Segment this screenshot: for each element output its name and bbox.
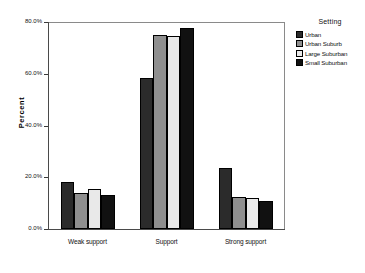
legend-swatch-icon [296, 31, 303, 38]
bar [219, 168, 233, 229]
bar-group [127, 22, 206, 229]
legend-item[interactable]: Large Suburban [296, 49, 364, 57]
bar [88, 189, 102, 229]
y-axis-tick-label: 0.0% [0, 225, 42, 231]
bar [259, 201, 273, 229]
bar-group [48, 22, 127, 229]
bar [140, 78, 154, 229]
x-axis-tick-label: Strong support [206, 238, 285, 245]
bar [246, 198, 260, 229]
legend-swatch-icon [296, 59, 303, 66]
legend-item[interactable]: Small Suburban [296, 59, 364, 67]
bar [180, 28, 194, 229]
legend-item-label: Urban Suburb [305, 40, 342, 47]
bar-group [206, 22, 285, 229]
legend-item[interactable]: Urban Suburb [296, 40, 364, 48]
bar [74, 193, 88, 229]
y-axis-title: Percent [17, 78, 26, 148]
y-axis-tick-label: 20.0% [0, 173, 42, 179]
y-axis-tick [44, 229, 48, 230]
legend-swatch-icon [296, 40, 303, 47]
x-axis-tick-label: Weak support [48, 238, 127, 245]
bar [153, 35, 167, 229]
legend-item-label: Small Suburban [305, 59, 347, 66]
y-axis-tick-label: 60.0% [0, 70, 42, 76]
legend-swatch-icon [296, 50, 303, 57]
legend: Setting UrbanUrban SuburbLarge SuburbanS… [296, 18, 364, 68]
x-axis-line [48, 229, 285, 230]
legend-entries: UrbanUrban SuburbLarge SuburbanSmall Sub… [296, 30, 364, 67]
y-axis-tick-label: 80.0% [0, 18, 42, 24]
legend-title: Setting [296, 18, 364, 25]
legend-item-label: Urban [305, 31, 321, 38]
bar [232, 197, 246, 229]
y-axis-tick-label: 40.0% [0, 122, 42, 128]
bar-chart-figure: Percent 0.0%20.0%40.0%60.0%80.0% Weak su… [0, 0, 365, 273]
bar [101, 195, 115, 229]
legend-item-label: Large Suburban [305, 50, 347, 57]
bars-container [48, 22, 285, 229]
x-axis-tick-label: Support [127, 238, 206, 245]
bar [167, 36, 181, 229]
legend-item[interactable]: Urban [296, 30, 364, 38]
bar [61, 182, 75, 229]
